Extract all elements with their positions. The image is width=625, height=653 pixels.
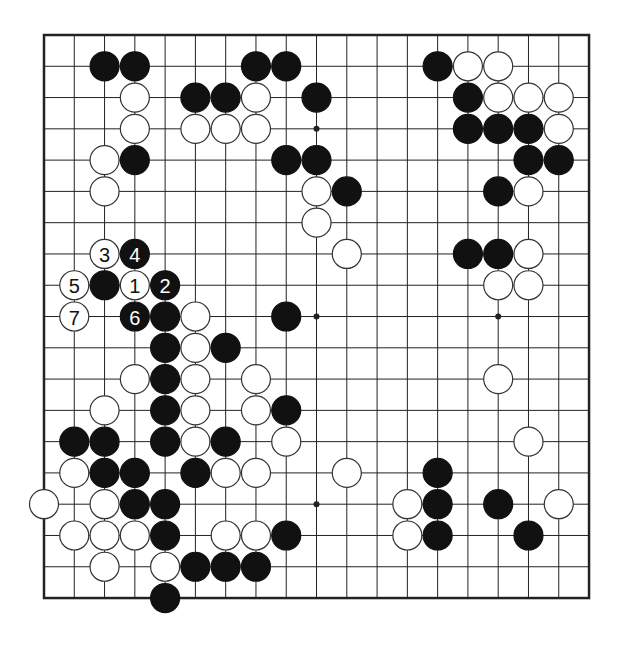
black-stone — [272, 146, 301, 175]
stone-circle — [332, 177, 361, 206]
stone-circle — [423, 490, 452, 519]
white-stone — [181, 333, 210, 362]
stone-circle — [90, 177, 119, 206]
stone-circle — [453, 83, 482, 112]
black-stone — [151, 302, 180, 331]
white-stone — [393, 521, 422, 550]
stone-circle — [151, 584, 180, 613]
stone-circle — [151, 427, 180, 456]
black-stone — [272, 396, 301, 425]
star-point — [314, 501, 320, 507]
black-stone — [302, 146, 331, 175]
white-stone — [241, 83, 270, 112]
white-stone — [181, 396, 210, 425]
white-stone — [514, 427, 543, 456]
black-stone — [332, 177, 361, 206]
white-stone: 5 — [60, 271, 89, 300]
stone-circle — [211, 427, 240, 456]
white-stone — [514, 83, 543, 112]
stone-circle — [151, 302, 180, 331]
white-stone — [90, 552, 119, 581]
stone-circle — [181, 427, 210, 456]
black-stone — [120, 458, 149, 487]
stone-circle — [120, 52, 149, 81]
white-stone — [90, 521, 119, 550]
stone-circle — [30, 490, 59, 519]
black-stone: 4 — [120, 239, 149, 268]
white-stone — [181, 114, 210, 143]
white-stone — [90, 146, 119, 175]
stone-circle — [514, 239, 543, 268]
move-number-label: 5 — [69, 275, 80, 297]
stone-circle — [484, 177, 513, 206]
black-stone — [453, 83, 482, 112]
stone-circle — [151, 521, 180, 550]
black-stone — [151, 396, 180, 425]
stone-circle — [120, 521, 149, 550]
white-stone — [60, 458, 89, 487]
white-stone — [544, 114, 573, 143]
white-stone — [302, 208, 331, 237]
stone-circle — [393, 521, 422, 550]
stone-circle — [514, 177, 543, 206]
stone-circle — [514, 114, 543, 143]
black-stone — [211, 333, 240, 362]
black-stone — [423, 521, 452, 550]
white-stone — [484, 52, 513, 81]
black-stone — [302, 83, 331, 112]
stone-circle — [241, 52, 270, 81]
white-stone — [514, 239, 543, 268]
stone-circle — [90, 396, 119, 425]
black-stone — [60, 427, 89, 456]
stone-circle — [484, 114, 513, 143]
white-stone — [181, 365, 210, 394]
stone-circle — [484, 365, 513, 394]
white-stone — [120, 521, 149, 550]
stone-circle — [120, 458, 149, 487]
black-stone — [151, 427, 180, 456]
white-stone — [544, 83, 573, 112]
black-stone — [151, 365, 180, 394]
black-stone — [241, 52, 270, 81]
white-stone — [211, 114, 240, 143]
black-stone — [453, 114, 482, 143]
stone-circle — [241, 521, 270, 550]
stone-circle — [544, 490, 573, 519]
black-stone — [211, 83, 240, 112]
white-stone — [211, 458, 240, 487]
stone-circle — [151, 365, 180, 394]
stone-circle — [302, 83, 331, 112]
black-stone — [211, 552, 240, 581]
stone-circle — [272, 52, 301, 81]
black-stone — [514, 521, 543, 550]
white-stone — [241, 114, 270, 143]
black-stone — [181, 552, 210, 581]
black-stone — [151, 521, 180, 550]
stone-circle — [302, 146, 331, 175]
stone-circle — [120, 490, 149, 519]
stone-circle — [484, 52, 513, 81]
white-stone — [211, 521, 240, 550]
stone-circle — [90, 490, 119, 519]
stone-circle — [484, 239, 513, 268]
stone-circle — [423, 521, 452, 550]
black-stone — [151, 333, 180, 362]
black-stone: 6 — [120, 302, 149, 331]
white-stone — [272, 427, 301, 456]
white-stone — [332, 458, 361, 487]
stone-circle — [90, 521, 119, 550]
stone-circle — [151, 396, 180, 425]
star-point — [495, 314, 501, 320]
move-number-label: 3 — [99, 244, 110, 266]
stone-circle — [514, 521, 543, 550]
stone-circle — [211, 333, 240, 362]
stone-circle — [90, 427, 119, 456]
white-stone — [241, 458, 270, 487]
stone-circle — [60, 458, 89, 487]
stone-circle — [211, 552, 240, 581]
stone-circle — [151, 333, 180, 362]
stone-circle — [514, 146, 543, 175]
black-stone: 2 — [151, 271, 180, 300]
stones-layer: 3451276 — [30, 52, 574, 613]
black-stone — [272, 302, 301, 331]
